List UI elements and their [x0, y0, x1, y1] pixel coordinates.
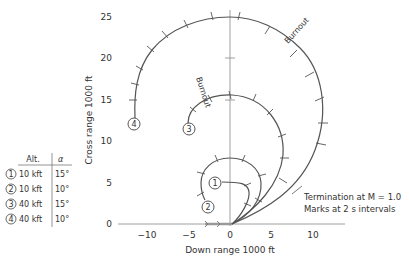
svg-text:2: 2 — [205, 203, 210, 212]
trajectory-chart: 0 5 10 15 20 25 −10 −5 0 5 10 Down range… — [0, 0, 409, 261]
marker-4: 4 — [128, 118, 140, 130]
marks-note: Marks at 2 s intervals — [304, 204, 396, 214]
svg-text:4: 4 — [8, 215, 13, 224]
termination-note: Termination at M = 1.0 — [303, 192, 401, 202]
svg-text:10 kft: 10 kft — [19, 185, 42, 194]
svg-text:10 kft: 10 kft — [19, 170, 42, 179]
legend-row: 3 40 kft 15° — [6, 199, 69, 209]
time-marks — [129, 12, 328, 206]
curve-markers: 1 2 3 4 — [128, 118, 221, 213]
burnout-label-inner: Burnout — [194, 76, 212, 109]
y-tick-labels: 0 5 10 15 20 25 — [101, 12, 113, 229]
marker-2: 2 — [202, 201, 214, 213]
x-tick: 10 — [307, 230, 319, 240]
svg-text:10°: 10° — [55, 215, 69, 224]
x-tick: −5 — [182, 230, 195, 240]
termination-leader — [292, 186, 302, 194]
svg-text:4: 4 — [131, 120, 136, 129]
curves — [135, 17, 323, 224]
y-tick: 25 — [101, 12, 112, 22]
svg-text:40 kft: 40 kft — [19, 200, 42, 209]
svg-text:40 kft: 40 kft — [19, 215, 42, 224]
legend-header-alpha: α — [58, 155, 64, 164]
svg-text:3: 3 — [8, 200, 13, 209]
launch-segment — [205, 221, 232, 227]
marker-3: 3 — [183, 123, 195, 135]
y-tick: 5 — [106, 178, 112, 188]
legend-header-alt: Alt. — [26, 155, 39, 164]
svg-text:10°: 10° — [55, 185, 69, 194]
curve-4 — [135, 17, 323, 224]
marker-1: 1 — [209, 177, 221, 189]
svg-text:1: 1 — [8, 170, 13, 179]
svg-text:15°: 15° — [55, 200, 69, 209]
x-tick: −10 — [138, 230, 157, 240]
legend-row: 4 40 kft 10° — [6, 214, 69, 224]
burnout-label-outer: Burnout — [283, 16, 311, 46]
legend-row: 1 10 kft 15° — [6, 169, 69, 179]
svg-text:3: 3 — [186, 125, 191, 134]
x-tick: 5 — [268, 230, 274, 240]
svg-text:2: 2 — [8, 185, 13, 194]
x-axis-label: Down range 1000 ft — [185, 245, 275, 255]
legend-table: Alt. α 1 10 kft 15° 2 10 kft 10° 3 40 kf… — [6, 153, 72, 227]
x-tick-labels: −10 −5 0 5 10 — [138, 230, 319, 240]
y-tick: 15 — [101, 95, 112, 105]
svg-text:1: 1 — [212, 179, 217, 188]
x-tick: 0 — [227, 230, 233, 240]
y-axis-label: Cross range 1000 ft — [84, 75, 94, 164]
y-tick: 0 — [106, 219, 112, 229]
legend-row: 2 10 kft 10° — [6, 184, 69, 194]
y-tick: 10 — [101, 136, 113, 146]
y-tick: 20 — [101, 53, 113, 63]
svg-text:15°: 15° — [55, 170, 69, 179]
